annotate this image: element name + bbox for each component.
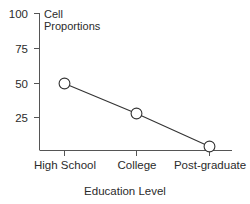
y-tick-label-75: 75 (2, 43, 28, 55)
data-point-college[interactable] (131, 108, 142, 119)
x-tick-label-high-school: High School (19, 159, 111, 171)
data-point-post-graduate[interactable] (204, 141, 215, 152)
x-tick-label-post-graduate: Post-graduate (165, 159, 250, 171)
x-tick-label-college: College (101, 159, 173, 171)
y-tick-label-25: 25 (2, 112, 28, 124)
chart-plot-area (0, 0, 250, 204)
x-axis-title: Education Level (0, 185, 250, 197)
y-axis-title-line2: Proportions (44, 20, 100, 32)
y-axis-title-line1: Cell (44, 8, 63, 20)
chart-container: 100 75 50 25 Cell Proportions High Schoo… (0, 0, 250, 204)
y-tick-label-100: 100 (2, 8, 28, 20)
data-point-high-school[interactable] (59, 78, 70, 89)
y-tick-label-50: 50 (2, 78, 28, 90)
